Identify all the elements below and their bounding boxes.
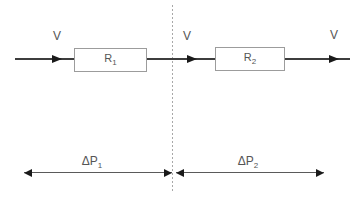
resistor-r2-name: R — [244, 51, 252, 63]
flow-line-middle-segment — [147, 58, 215, 60]
pressure-drop-1-dimension-line — [24, 172, 172, 173]
pressure-drop-2-label: ΔP2 — [223, 155, 273, 170]
resistor-box-r2: R2 — [215, 47, 285, 71]
pressure-drop-2-subscript: 2 — [254, 161, 258, 170]
pressure-drop-1-left-arrowhead-icon — [24, 169, 32, 177]
pressure-drop-1-subscript: 1 — [98, 161, 102, 170]
resistor-box-r1: R1 — [74, 48, 147, 72]
flow-label-left: V — [50, 30, 64, 42]
pressure-drop-1-label: ΔP1 — [67, 155, 117, 170]
pressure-drop-2-left-arrowhead-icon — [176, 169, 184, 177]
resistor-r2-subscript: 2 — [252, 57, 256, 66]
series-resistance-flow-diagram: V V V R1 R2 ΔP1 ΔP2 — [0, 0, 360, 199]
flow-label-right: V — [327, 29, 341, 41]
dotted-divider-line — [172, 5, 173, 193]
resistor-r1-subscript: 1 — [112, 58, 116, 67]
pressure-drop-1-name: ΔP — [82, 154, 98, 168]
pressure-drop-2-name: ΔP — [238, 154, 254, 168]
flow-arrowhead-right-icon — [329, 55, 339, 63]
flow-arrowhead-left-icon — [52, 55, 62, 63]
flow-label-middle: V — [180, 30, 194, 42]
resistor-label-r1: R1 — [104, 53, 116, 67]
flow-line-left-segment — [15, 58, 74, 60]
pressure-drop-1-right-arrowhead-icon — [164, 169, 172, 177]
flow-line-right-segment — [285, 58, 350, 60]
resistor-label-r2: R2 — [244, 52, 256, 66]
pressure-drop-2-dimension-line — [176, 172, 324, 173]
pressure-drop-2-right-arrowhead-icon — [316, 169, 324, 177]
flow-arrowhead-middle-icon — [187, 55, 197, 63]
